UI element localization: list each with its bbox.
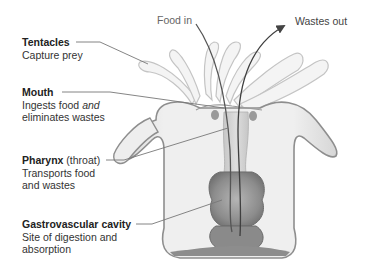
label-mouth-desc-2: eliminates wastes	[22, 111, 105, 124]
leader-tentacles	[76, 42, 148, 64]
tentacles-group	[139, 42, 328, 112]
label-pharynx-title: Pharynx	[22, 154, 63, 166]
label-pharynx-desc-2: and wastes	[22, 179, 100, 192]
label-tentacles-title: Tentacles	[22, 36, 70, 48]
label-pharynx-desc-1: Transports food	[22, 167, 100, 180]
gastrovascular-cavity	[209, 172, 264, 226]
label-tentacles-desc: Capture prey	[22, 49, 83, 62]
diagram-canvas: Food in Wastes out Tentacles Capture pre…	[0, 0, 369, 270]
label-gastrovascular-desc-1: Site of digestion and	[22, 231, 131, 244]
food-in-label: Food in	[157, 14, 192, 26]
mouth-pore-left	[211, 110, 219, 120]
label-gastrovascular-title: Gastrovascular cavity	[22, 218, 131, 230]
label-pharynx: Pharynx (throat) Transports food and was…	[22, 154, 100, 192]
label-mouth-desc-1: Ingests food and	[22, 99, 105, 112]
label-mouth: Mouth Ingests food and eliminates wastes	[22, 86, 105, 124]
wastes-out-label: Wastes out	[295, 15, 347, 27]
label-gastrovascular-desc-2: absorption	[22, 243, 131, 256]
label-gastrovascular: Gastrovascular cavity Site of digestion …	[22, 218, 131, 256]
label-tentacles: Tentacles Capture prey	[22, 36, 83, 61]
mouth-pore-right	[249, 111, 257, 121]
label-mouth-title: Mouth	[22, 86, 54, 98]
